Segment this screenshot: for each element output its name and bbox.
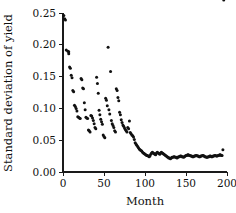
x-axis-title: Month: [126, 194, 165, 208]
data-point: [101, 123, 104, 126]
data-point: [120, 118, 123, 121]
data-point: [103, 136, 106, 139]
data-points-layer: [62, 0, 225, 160]
data-point: [86, 117, 89, 120]
data-point: [72, 90, 75, 93]
data-point: [222, 0, 225, 2]
data-point: [80, 78, 83, 81]
data-point: [97, 92, 100, 95]
data-point: [116, 89, 119, 92]
data-point: [69, 67, 72, 70]
x-axis-tick-label: 100: [135, 177, 155, 189]
x-axis: 050100150200: [60, 172, 236, 189]
x-axis-tick-label: 200: [217, 177, 236, 189]
data-point: [99, 118, 102, 121]
data-point: [109, 70, 112, 73]
data-point: [127, 127, 130, 130]
y-axis-tick-label: 0.10: [33, 102, 56, 114]
data-point: [82, 87, 85, 90]
x-axis-tick-label: 150: [176, 177, 196, 189]
data-point: [84, 108, 87, 111]
scatter-plot-figure: 0.000.050.100.150.200.25 050100150200 Mo…: [0, 0, 236, 213]
data-point: [107, 46, 110, 49]
data-point: [91, 116, 94, 119]
y-axis-tick-label: 0.25: [33, 7, 56, 19]
data-point: [89, 130, 92, 133]
data-point: [132, 136, 135, 139]
y-axis-tick-label: 0.00: [33, 166, 56, 178]
x-axis-tick-label: 50: [97, 177, 110, 189]
data-point: [105, 99, 108, 102]
y-axis-title: Standard deviation of yield: [1, 13, 15, 171]
data-point: [70, 74, 73, 77]
data-point: [133, 138, 136, 141]
data-point: [114, 130, 117, 133]
y-axis-tick-label: 0.15: [33, 70, 56, 82]
data-point: [75, 109, 78, 112]
data-point: [98, 113, 101, 116]
data-point: [64, 19, 67, 22]
data-point: [96, 82, 99, 85]
data-point: [98, 109, 101, 112]
data-point: [108, 113, 111, 116]
y-axis: 0.000.050.100.150.200.25: [33, 7, 63, 178]
data-point: [94, 127, 97, 130]
data-point: [116, 96, 119, 99]
x-axis-tick-label: 0: [60, 177, 67, 189]
data-point: [67, 52, 70, 55]
chart-canvas: 0.000.050.100.150.200.25 050100150200 Mo…: [0, 0, 236, 213]
data-point: [95, 76, 98, 79]
data-point: [62, 14, 65, 17]
data-point: [119, 113, 122, 116]
data-point: [107, 108, 110, 111]
data-point: [221, 148, 224, 151]
data-point: [100, 120, 103, 123]
data-point: [117, 99, 120, 102]
data-point: [83, 101, 86, 104]
data-point: [121, 121, 124, 124]
y-axis-tick-label: 0.05: [33, 134, 56, 146]
data-point: [128, 120, 131, 123]
data-point: [112, 126, 115, 129]
data-point: [71, 76, 74, 79]
data-point: [79, 117, 82, 120]
data-point: [221, 154, 224, 157]
data-point: [75, 107, 78, 110]
data-point: [92, 119, 95, 122]
data-point: [118, 111, 121, 114]
data-point: [110, 119, 113, 122]
y-axis-tick-label: 0.20: [33, 38, 56, 50]
data-point: [93, 122, 96, 125]
data-point: [106, 104, 109, 107]
data-point: [125, 130, 128, 133]
